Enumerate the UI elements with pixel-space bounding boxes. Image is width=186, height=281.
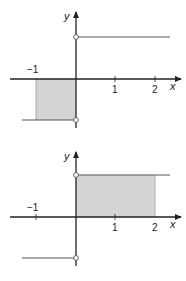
- diagram-canvas: y x −1 1 2 y x −1 1 2: [0, 0, 186, 281]
- bottom-graph: y x −1 1 2: [10, 150, 181, 266]
- top-graph: y x −1 1 2: [10, 10, 181, 128]
- x-axis-label: x: [169, 80, 176, 92]
- x-axis-label: x: [169, 218, 176, 230]
- tick-label-neg1: −1: [27, 64, 39, 75]
- y-axis-label: y: [63, 10, 71, 22]
- tick-label-neg1: −1: [27, 202, 39, 213]
- shaded-area: [36, 79, 76, 120]
- shaded-area: [76, 175, 155, 217]
- open-circle-upper: [74, 35, 79, 40]
- tick-label-1: 1: [112, 84, 118, 95]
- open-circle-lower: [74, 118, 79, 123]
- tick-label-2: 2: [152, 222, 158, 233]
- y-axis-label: y: [63, 150, 71, 162]
- tick-label-2: 2: [152, 84, 158, 95]
- tick-label-1: 1: [112, 222, 118, 233]
- open-circle-upper: [74, 173, 79, 178]
- open-circle-lower: [74, 256, 79, 261]
